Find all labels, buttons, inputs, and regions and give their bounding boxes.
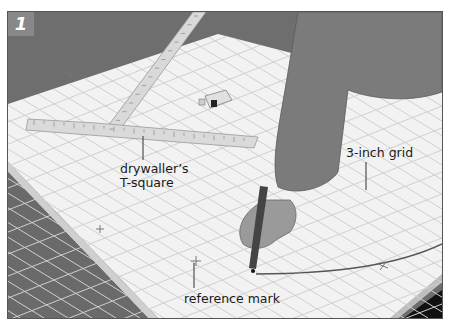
reference-mark-callout: reference mark xyxy=(184,292,280,306)
tsquare-label-line1: drywaller’s xyxy=(120,162,189,176)
tsquare-callout: drywaller’s T-square xyxy=(120,162,189,190)
tsquare-label-line2: T-square xyxy=(120,176,189,190)
illustration-frame: 1 drywaller’s T-square 3-inch grid refer… xyxy=(8,12,442,318)
drywall-layout-illustration xyxy=(8,12,442,318)
grid-callout: 3-inch grid xyxy=(346,146,413,160)
step-number-badge: 1 xyxy=(8,12,34,36)
